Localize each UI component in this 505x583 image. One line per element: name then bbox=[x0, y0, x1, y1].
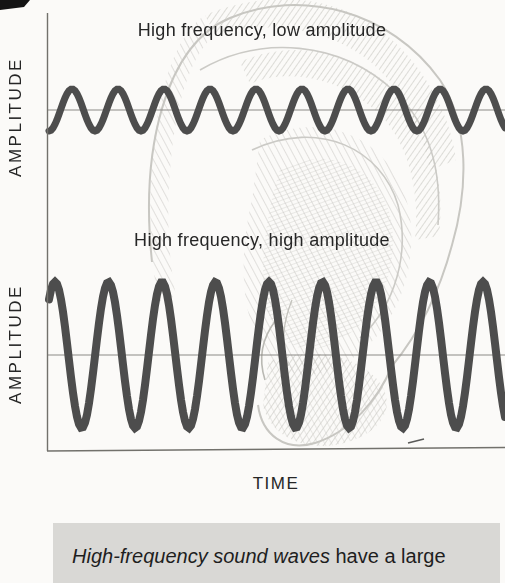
panel-title-low-amplitude: High frequency, low amplitude bbox=[47, 20, 477, 41]
scan-artifact-corner bbox=[0, 0, 30, 10]
panel-title-high-amplitude: High frequency, high amplitude bbox=[47, 230, 477, 251]
x-axis-label: TIME bbox=[47, 474, 505, 494]
caption-regular-phrase: have a large bbox=[330, 545, 446, 567]
y-axis-label-top: AMPLITUDE bbox=[6, 47, 30, 187]
caption-text: High-frequency sound waves have a large bbox=[72, 545, 446, 568]
caption-box: High-frequency sound waves have a large bbox=[53, 523, 500, 583]
caption-italic-phrase: High-frequency sound waves bbox=[72, 545, 330, 567]
stray-pen-mark bbox=[408, 439, 424, 443]
x-axis-line bbox=[47, 448, 505, 452]
y-axis-label-bottom: AMPLITUDE bbox=[6, 274, 30, 414]
